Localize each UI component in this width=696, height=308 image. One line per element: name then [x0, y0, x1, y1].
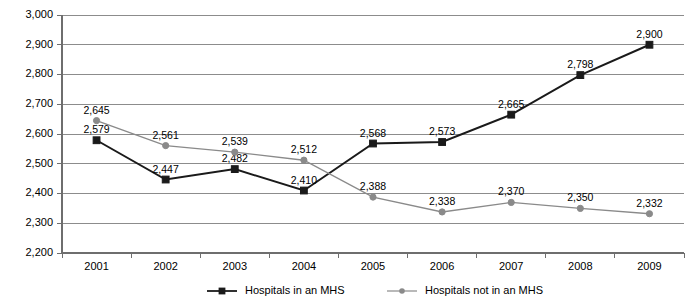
- y-axis-tick-label: 2,300: [25, 216, 53, 228]
- x-axis-tick-label: 2005: [361, 260, 385, 272]
- legend-marker: [219, 288, 226, 295]
- y-axis-tick-label: 2,500: [25, 157, 53, 169]
- data-point-marker: [300, 187, 307, 194]
- data-point-label: 2,900: [636, 28, 662, 40]
- data-point-label: 2,512: [291, 143, 317, 155]
- x-axis-tick-label: 2009: [637, 260, 661, 272]
- y-axis-tick-label: 2,200: [25, 246, 53, 258]
- x-axis-group: 200120022003200420052006200720082009: [62, 253, 684, 272]
- data-point-marker: [439, 209, 445, 215]
- y-axis-tick-label: 2,700: [25, 97, 53, 109]
- data-point-label: 2,579: [83, 123, 109, 135]
- gridlines-group: 2,2002,3002,4002,5002,6002,7002,8002,900…: [25, 8, 684, 258]
- data-point-label: 2,798: [567, 58, 593, 70]
- x-axis-tick-label: 2003: [223, 260, 247, 272]
- y-axis-tick-label: 3,000: [25, 8, 53, 20]
- data-point-marker: [646, 211, 652, 217]
- data-point-label: 2,332: [636, 197, 662, 209]
- data-point-marker: [508, 199, 514, 205]
- y-axis-tick-label: 2,900: [25, 38, 53, 50]
- data-point-label: 2,539: [222, 135, 248, 147]
- data-point-label: 2,410: [291, 174, 317, 186]
- data-point-label: 2,645: [83, 104, 109, 116]
- y-axis-tick-label: 2,800: [25, 67, 53, 79]
- x-axis-tick-label: 2001: [84, 260, 108, 272]
- data-point-marker: [439, 139, 446, 146]
- data-point-marker: [577, 72, 584, 79]
- data-point-label: 2,561: [153, 129, 179, 141]
- line-chart: 2,2002,3002,4002,5002,6002,7002,8002,900…: [0, 0, 696, 308]
- data-point-label: 2,338: [429, 195, 455, 207]
- x-axis-tick-label: 2002: [153, 260, 177, 272]
- chart-legend: Hospitals in an MHSHospitals not in an M…: [207, 284, 543, 296]
- legend-marker: [399, 288, 405, 294]
- data-point-marker: [162, 176, 169, 183]
- y-axis-tick-label: 2,400: [25, 186, 53, 198]
- data-point-label: 2,370: [498, 185, 524, 197]
- data-point-label: 2,665: [498, 98, 524, 110]
- series-1: 2,5792,4472,4822,4102,5682,5732,6652,798…: [83, 28, 662, 194]
- data-point-marker: [370, 194, 376, 200]
- series-2: 2,6452,5612,5392,5122,3882,3382,3702,350…: [83, 104, 662, 217]
- data-point-marker: [93, 137, 100, 144]
- chart-canvas: 2,2002,3002,4002,5002,6002,7002,8002,900…: [0, 0, 696, 308]
- legend-item-label: Hospitals not in an MHS: [425, 284, 543, 296]
- x-axis-tick-label: 2007: [499, 260, 523, 272]
- data-point-marker: [232, 149, 238, 155]
- data-point-label: 2,388: [360, 180, 386, 192]
- data-point-marker: [231, 166, 238, 173]
- data-point-marker: [93, 118, 99, 124]
- data-point-marker: [301, 157, 307, 163]
- data-point-label: 2,568: [360, 127, 386, 139]
- data-point-label: 2,573: [429, 125, 455, 137]
- data-point-marker: [646, 41, 653, 48]
- data-point-label: 2,447: [153, 163, 179, 175]
- x-axis-tick-label: 2006: [430, 260, 454, 272]
- data-point-marker: [508, 111, 515, 118]
- x-axis-tick-label: 2008: [568, 260, 592, 272]
- data-point-label: 2,350: [567, 191, 593, 203]
- data-point-marker: [577, 205, 583, 211]
- data-point-marker: [370, 140, 377, 147]
- y-axis-tick-label: 2,600: [25, 127, 53, 139]
- x-axis-tick-label: 2004: [292, 260, 316, 272]
- legend-item-label: Hospitals in an MHS: [245, 284, 345, 296]
- data-point-marker: [163, 143, 169, 149]
